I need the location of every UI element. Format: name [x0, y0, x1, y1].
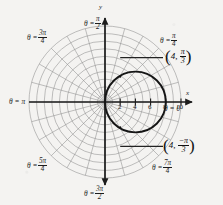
point-lower-angle: −π3: [178, 137, 189, 154]
theta-5pi-4-denominator: 4: [38, 165, 47, 173]
theta-3pi-4-fraction: 3π4: [38, 30, 47, 46]
theta-pi-2-fraction: π2: [95, 16, 101, 32]
point-lower-angle-denominator: 3: [178, 145, 189, 154]
theta-pi-2-numerator: π: [95, 16, 101, 23]
theta-pi-2-label: θ = π2: [84, 16, 101, 32]
x-tick-label-6: 6: [148, 104, 152, 111]
point-lower-angle-num-value: π: [184, 136, 188, 145]
theta-5pi-4-label: θ = 5π4: [27, 158, 47, 174]
point-lower-angle-numerator: −π: [178, 137, 189, 145]
theta-pi-label: θ =π: [9, 98, 25, 105]
theta-pi-eq: θ =: [9, 97, 19, 106]
theta-pi-4-fraction: π4: [171, 33, 177, 49]
theta-3pi-4-eq: θ =: [27, 33, 37, 42]
theta-7pi-4-denominator: 4: [163, 167, 172, 175]
paren-close-upper: ): [186, 47, 192, 66]
theta-5pi-4-eq: θ =: [27, 161, 37, 170]
theta-3pi-2-eq: θ =: [84, 189, 94, 198]
x-tick-label-2: 2: [118, 104, 122, 111]
x-axis-label: x: [186, 90, 189, 97]
x-tick-label-10: 10: [176, 104, 183, 111]
theta-pi-2-eq: θ =: [84, 19, 94, 28]
theta-7pi-4-fraction: 7π4: [163, 160, 172, 176]
x-tick-label-8: 8: [163, 104, 167, 111]
paren-close-lower: ): [189, 136, 195, 155]
theta-pi-value: π: [21, 97, 25, 106]
theta-5pi-4-numerator: 5π: [38, 158, 47, 165]
theta-pi-4-numerator: π: [171, 33, 177, 40]
theta-pi-2-denominator: 2: [95, 23, 101, 31]
theta-3pi-2-denominator: 2: [95, 193, 104, 201]
theta-3pi-4-label: θ = 3π4: [27, 30, 47, 46]
theta-7pi-4-eq: θ =: [152, 163, 162, 172]
theta-5pi-4-fraction: 5π4: [38, 158, 47, 174]
theta-3pi-4-numerator: 3π: [38, 30, 47, 37]
theta-3pi-2-fraction: 3π2: [95, 186, 104, 202]
theta-7pi-4-numerator: 7π: [163, 160, 172, 167]
theta-7pi-4-label: θ = 7π4: [152, 160, 172, 176]
x-tick-label-4: 4: [133, 104, 137, 111]
theta-3pi-2-label: θ = 3π2: [84, 186, 104, 202]
theta-3pi-2-numerator: 3π: [95, 186, 104, 193]
theta-pi-4-denominator: 4: [171, 40, 177, 48]
y-axis-label: y: [99, 4, 102, 11]
point-label-lower: ( 4, −π3 ): [163, 137, 195, 154]
theta-3pi-4-denominator: 4: [38, 37, 47, 45]
theta-pi-4-eq: θ =: [160, 36, 170, 45]
point-label-upper: ( 4, π3 ): [165, 48, 191, 65]
